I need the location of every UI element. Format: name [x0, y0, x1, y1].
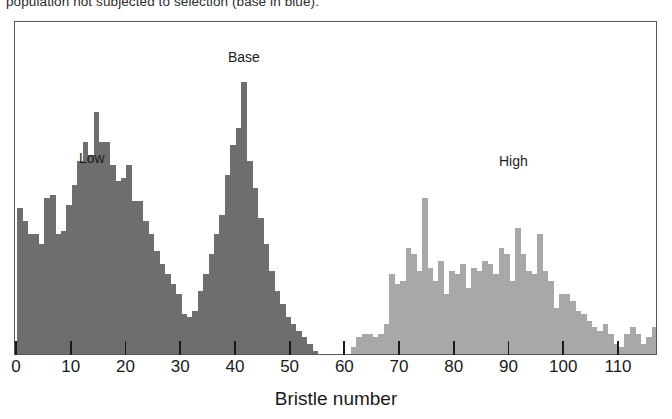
x-axis-tick — [289, 341, 291, 355]
x-axis-tick-label: 100 — [549, 357, 577, 377]
x-axis-tick — [343, 341, 345, 355]
histogram-series-high — [15, 22, 656, 354]
x-axis-tick-label: 110 — [604, 357, 631, 377]
x-axis-tick — [562, 341, 564, 355]
series-label-low: Low — [79, 150, 105, 166]
x-axis-tick-label: 20 — [116, 357, 135, 377]
x-axis-tick-label: 40 — [225, 357, 244, 377]
x-axis-tick-label: 50 — [280, 357, 299, 377]
x-axis-tick-label: 60 — [335, 357, 354, 377]
x-axis-tick-label: 90 — [499, 357, 518, 377]
x-axis-tick — [617, 341, 619, 355]
figure-root: population not subjected to selection (b… — [0, 0, 672, 419]
x-axis-tick — [453, 341, 455, 355]
x-axis-tick — [15, 341, 17, 355]
x-axis-title: Bristle number — [0, 388, 672, 410]
plot-frame: Low Base High — [14, 21, 657, 355]
x-axis-ticks — [14, 341, 657, 356]
x-axis-tick — [179, 341, 181, 355]
x-axis-tick — [398, 341, 400, 355]
x-axis-tick-labels: 0102030405060708090100110 — [0, 357, 672, 383]
series-label-base: Base — [228, 49, 260, 65]
x-axis-tick-label: 10 — [61, 357, 80, 377]
x-axis-tick — [508, 341, 510, 355]
x-axis-tick-label: 0 — [11, 357, 20, 377]
x-axis-tick-label: 80 — [444, 357, 463, 377]
caption-top-text: population not subjected to selection (b… — [6, 0, 319, 12]
x-axis-tick-label: 70 — [390, 357, 409, 377]
plot-area: Low Base High — [15, 22, 656, 354]
x-axis-tick — [70, 341, 72, 355]
x-axis-tick-label: 30 — [171, 357, 190, 377]
series-label-high: High — [499, 153, 528, 169]
x-axis-tick — [234, 341, 236, 355]
x-axis-tick — [125, 341, 127, 355]
